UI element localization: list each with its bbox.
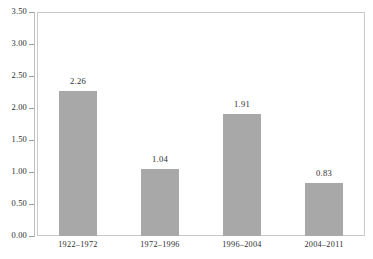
x-axis-category-label: 2004–2011 (279, 241, 369, 249)
bar (223, 114, 261, 236)
x-axis-category-label: 1972–1996 (115, 241, 205, 249)
bar (305, 183, 343, 236)
x-axis-category-label: 1996–2004 (197, 241, 287, 249)
bar-value-label: 2.26 (48, 77, 108, 86)
x-axis-category-label: 1922–1972 (33, 241, 123, 249)
bar-series: 2.261.041.910.83 (0, 0, 373, 259)
bar-value-label: 1.04 (130, 155, 190, 164)
bar-chart: 0.000.501.001.502.002.503.003.50 2.261.0… (0, 0, 373, 259)
bar (59, 91, 97, 236)
bar-value-label: 0.83 (294, 169, 354, 178)
bar (141, 169, 179, 236)
bar-value-label: 1.91 (212, 100, 272, 109)
